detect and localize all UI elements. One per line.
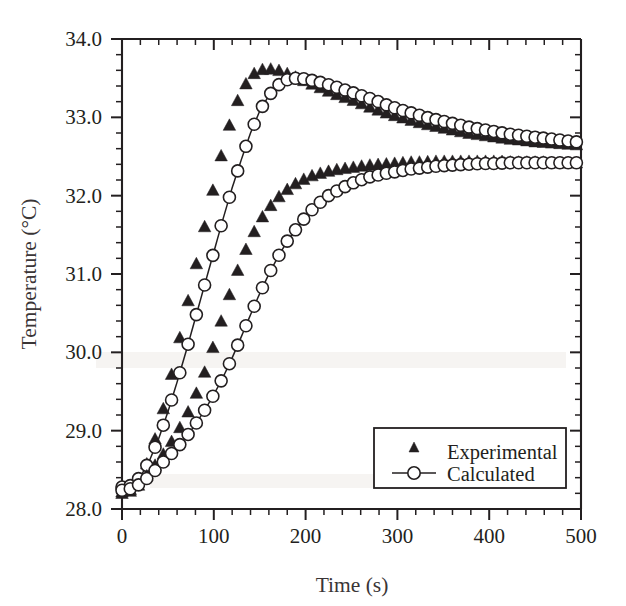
legend-label-experimental: Experimental (447, 441, 558, 464)
data-marker-open-circle (281, 235, 293, 247)
y-tick-label: 30.0 (65, 340, 102, 364)
data-marker-open-circle (199, 279, 211, 291)
data-marker-open-circle (207, 249, 219, 261)
data-marker-open-circle (232, 165, 244, 177)
y-axis-title-text: Temperature (°C) (17, 199, 41, 350)
data-marker-open-circle (290, 224, 302, 236)
chart-figure: 010020030040050028.029.030.031.032.033.0… (0, 0, 626, 606)
x-tick-label: 300 (382, 524, 414, 548)
data-marker-open-circle (256, 282, 268, 294)
data-marker-open-circle (174, 439, 186, 451)
x-tick-label: 200 (290, 524, 322, 548)
data-marker-open-circle (273, 249, 285, 261)
data-marker-open-circle (232, 339, 244, 351)
legend-marker-open-circle-icon (408, 467, 420, 479)
data-marker-open-circle (240, 320, 252, 332)
y-tick-label: 31.0 (65, 262, 102, 286)
x-tick-label: 400 (473, 524, 505, 548)
data-marker-open-circle (190, 417, 202, 429)
x-tick-label: 500 (565, 524, 597, 548)
chart-legend[interactable]: Experimental Calculated (374, 428, 566, 488)
data-marker-open-circle (570, 157, 582, 169)
scan-artifact-band-upper (96, 352, 566, 368)
data-marker-open-circle (157, 419, 169, 431)
data-marker-open-circle (265, 265, 277, 277)
data-marker-open-circle (215, 220, 227, 232)
y-axis-title: Temperature (°C) (17, 199, 41, 350)
data-marker-open-circle (182, 428, 194, 440)
data-marker-open-circle (223, 358, 235, 370)
data-marker-open-circle (182, 338, 194, 350)
legend-label-calculated: Calculated (447, 463, 535, 485)
data-marker-open-circle (240, 140, 252, 152)
y-tick-label: 33.0 (65, 105, 102, 129)
data-marker-open-circle (166, 394, 178, 406)
data-marker-open-circle (207, 390, 219, 402)
data-marker-open-circle (248, 118, 260, 130)
data-marker-open-circle (215, 375, 227, 387)
x-axis-title-text: Time (s) (316, 573, 389, 597)
y-tick-label: 28.0 (65, 497, 102, 521)
chart-canvas: 010020030040050028.029.030.031.032.033.0… (0, 0, 626, 606)
data-marker-open-circle (223, 191, 235, 203)
data-marker-open-circle (190, 309, 202, 321)
y-tick-label: 32.0 (65, 184, 102, 208)
data-marker-open-circle (199, 404, 211, 416)
data-marker-open-circle (570, 136, 582, 148)
data-marker-open-circle (248, 300, 260, 312)
x-tick-label: 100 (198, 524, 230, 548)
data-marker-open-circle (256, 100, 268, 112)
data-marker-open-circle (149, 441, 161, 453)
y-tick-label: 29.0 (65, 419, 102, 443)
data-marker-open-circle (174, 367, 186, 379)
y-tick-label: 34.0 (65, 27, 102, 51)
x-tick-label: 0 (117, 524, 128, 548)
